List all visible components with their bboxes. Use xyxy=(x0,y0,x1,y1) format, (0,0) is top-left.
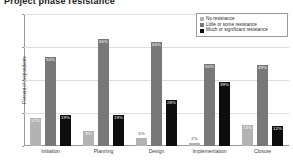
bar-value-label: 50% xyxy=(205,65,214,69)
x-axis-category-label: Planning xyxy=(94,148,113,154)
bar-group: 17%54%19% xyxy=(30,14,71,146)
legend-swatch-icon xyxy=(200,29,204,33)
bar: 17% xyxy=(30,118,41,146)
bar-value-label: 39% xyxy=(220,83,229,87)
bar: 19% xyxy=(113,115,124,146)
bar: 39% xyxy=(219,82,230,146)
bar: 50% xyxy=(204,64,215,147)
legend-swatch-icon xyxy=(200,17,204,21)
bar-group: 9%65%19% xyxy=(83,14,124,146)
bar-value-label: 19% xyxy=(61,116,70,120)
chart-title: Project phase resistance xyxy=(4,0,115,6)
legend-swatch-icon xyxy=(200,23,204,27)
bar-value-label: 49% xyxy=(258,66,267,70)
y-axis-title: Percent of respondents xyxy=(22,20,27,140)
bar-value-label: 17% xyxy=(31,119,40,123)
x-axis-category-label: Initiation xyxy=(41,148,60,154)
legend-label: Much or significant resistance xyxy=(206,28,268,33)
bar: 9% xyxy=(83,131,94,146)
x-axis-category-label: Implementation xyxy=(192,148,226,154)
legend-item[interactable]: No resistance xyxy=(200,17,284,22)
bar: 5% xyxy=(136,138,147,146)
bar: 13% xyxy=(242,125,253,146)
bar-value-label: 12% xyxy=(273,127,282,131)
bar-value-label: 65% xyxy=(99,40,108,44)
bar: 28% xyxy=(166,100,177,146)
bar-value-label: 28% xyxy=(167,101,176,105)
chart-legend: No resistanceLittle or some resistanceMu… xyxy=(196,13,288,37)
y-tick-mark xyxy=(22,146,24,147)
bar-value-label: 5% xyxy=(138,132,144,136)
bar: 63% xyxy=(151,42,162,146)
legend-label: No resistance xyxy=(206,17,235,22)
bar-value-label: 13% xyxy=(243,126,252,130)
legend-item[interactable]: Much or significant resistance xyxy=(200,28,284,33)
x-axis-category-label: Closure xyxy=(254,148,271,154)
bar-chart: Project phase resistance 0%20%40%60%80% … xyxy=(0,0,293,164)
bar: 2% xyxy=(189,143,200,146)
bar-group: 5%63%28% xyxy=(136,14,177,146)
bar-value-label: 54% xyxy=(46,58,55,62)
bar-value-label: 63% xyxy=(152,43,161,47)
bar-value-label: 19% xyxy=(114,116,123,120)
chart-title-strip: Project phase resistance xyxy=(0,0,293,9)
bar: 19% xyxy=(60,115,71,146)
bar: 49% xyxy=(257,65,268,146)
x-axis-category-label: Design xyxy=(149,148,165,154)
bar: 65% xyxy=(98,39,109,146)
bar-value-label: 9% xyxy=(85,132,91,136)
bar: 12% xyxy=(272,126,283,146)
y-tick-mark xyxy=(22,14,24,15)
bar-value-label: 2% xyxy=(191,137,197,141)
bar: 54% xyxy=(45,57,56,146)
